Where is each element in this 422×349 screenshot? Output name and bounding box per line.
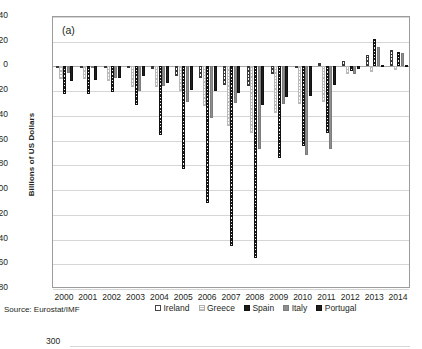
bar-ireland-2004 (151, 66, 154, 68)
bar-italy-2014 (401, 53, 404, 67)
bar-portugal-2012 (357, 66, 360, 68)
bar-ireland-2001 (80, 66, 83, 68)
legend-swatch-portugal-icon (316, 305, 322, 311)
bar-spain-2009 (278, 66, 281, 157)
legend-item-italy[interactable]: Italy (283, 303, 307, 313)
bar-portugal-2001 (94, 66, 97, 80)
bar-greece-2011 (322, 66, 325, 101)
chart-plot-area (52, 16, 410, 288)
bar-ireland-2008 (247, 66, 250, 85)
bar-portugal-2002 (118, 66, 121, 77)
bar-italy-2010 (305, 66, 308, 155)
legend-item-spain[interactable]: Spain (244, 303, 274, 313)
bar-portugal-2004 (166, 66, 169, 83)
bar-ireland-2002 (104, 66, 107, 68)
bar-italy-2007 (234, 66, 237, 102)
bar-portugal-2003 (142, 66, 145, 76)
bar-portugal-2014 (405, 65, 408, 67)
bar-ireland-2006 (199, 66, 202, 77)
bar-greece-2010 (298, 66, 301, 103)
bar-ireland-2000 (56, 66, 59, 68)
legend-label: Portugal (325, 303, 357, 313)
bar-greece-2008 (250, 66, 253, 133)
bar-italy-2012 (353, 66, 356, 74)
bar-portugal-2006 (214, 66, 217, 90)
bar-portugal-2005 (190, 66, 193, 89)
bar-italy-2013 (377, 47, 380, 67)
bar-spain-2004 (159, 66, 162, 135)
legend-swatch-italy-icon (283, 305, 289, 311)
bar-spain-2008 (254, 66, 257, 258)
bar-ireland-2014 (390, 50, 393, 66)
bar-italy-2004 (162, 66, 165, 85)
y-tick-label: −20 (0, 85, 8, 94)
y-tick-label: 0 (0, 60, 8, 69)
source-note: Source: Eurostat/IMF (4, 305, 80, 314)
gridline (53, 289, 409, 290)
y-tick-label: −40 (0, 110, 8, 119)
gridline (53, 42, 409, 43)
bar-portugal-2009 (285, 66, 288, 97)
bar-italy-2003 (138, 66, 141, 90)
bar-spain-2012 (350, 66, 353, 70)
y-tick-label: −100 (0, 184, 8, 193)
legend-item-portugal[interactable]: Portugal (316, 303, 356, 313)
bar-greece-2009 (274, 66, 277, 113)
y-tick-label: 20 (0, 36, 8, 45)
next-chart-gridline (70, 346, 410, 347)
bar-ireland-2003 (127, 66, 130, 68)
y-tick-label: −140 (0, 234, 8, 243)
bar-ireland-2013 (366, 55, 369, 67)
bar-spain-2000 (63, 66, 66, 93)
y-tick-label: −180 (0, 283, 8, 292)
bar-greece-2000 (59, 66, 62, 78)
bar-ireland-2011 (318, 63, 321, 66)
bar-greece-2005 (179, 66, 182, 91)
bar-ireland-2005 (175, 66, 178, 75)
bar-portugal-2010 (309, 66, 312, 95)
bar-spain-2007 (230, 66, 233, 245)
y-tick-label: −60 (0, 135, 8, 144)
bar-ireland-2010 (295, 66, 298, 68)
bar-spain-2014 (397, 52, 400, 67)
gridline (53, 17, 409, 18)
bar-portugal-2008 (261, 66, 264, 104)
y-axis-title: Billions of US Dollars (27, 80, 36, 230)
bar-greece-2002 (107, 66, 110, 81)
bar-italy-2005 (186, 66, 189, 102)
bar-italy-2000 (67, 66, 70, 73)
bar-greece-2006 (203, 66, 206, 106)
legend-swatch-spain-icon (244, 305, 250, 311)
bar-portugal-2013 (381, 65, 384, 67)
bar-ireland-2009 (271, 66, 274, 74)
bar-greece-2012 (346, 66, 349, 73)
y-tick-label: −80 (0, 159, 8, 168)
bar-italy-2001 (91, 66, 94, 68)
bar-portugal-2007 (237, 66, 240, 93)
legend-swatch-greece-icon (199, 305, 205, 311)
bar-spain-2013 (373, 39, 376, 66)
bar-italy-2009 (282, 66, 285, 103)
bar-ireland-2007 (223, 66, 226, 85)
legend-item-greece[interactable]: Greece (199, 303, 235, 313)
bar-italy-2006 (210, 66, 213, 117)
bar-spain-2010 (302, 66, 305, 146)
legend-label: Italy (292, 303, 308, 313)
bar-portugal-2000 (70, 66, 73, 80)
legend-item-ireland[interactable]: Ireland (155, 303, 190, 313)
x-tick-label: 2014 (378, 292, 418, 302)
bar-greece-2007 (227, 66, 230, 125)
panel-label: (a) (62, 24, 75, 36)
bar-spain-2011 (326, 66, 329, 132)
legend-label: Spain (252, 303, 274, 313)
next-chart-tick-label: 300 (46, 336, 60, 346)
bar-greece-2014 (394, 66, 397, 70)
bar-greece-2004 (155, 66, 158, 87)
bar-italy-2008 (258, 66, 261, 148)
bar-italy-2011 (329, 66, 332, 149)
y-tick-label: 40 (0, 11, 8, 20)
bar-spain-2002 (111, 66, 114, 92)
bar-italy-2002 (114, 66, 117, 78)
legend-label: Ireland (164, 303, 190, 313)
bar-greece-2001 (83, 66, 86, 79)
